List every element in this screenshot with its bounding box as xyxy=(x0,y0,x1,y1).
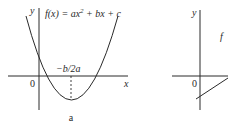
panel-b-y-axis-label: y xyxy=(191,7,197,18)
panel-a-x-axis-label: x xyxy=(123,78,129,89)
panel-a-origin-label: 0 xyxy=(30,78,35,89)
panel-a-y-axis-label: y xyxy=(29,5,35,16)
function-graphs-figure: y x 0 f(x) = ax2 + bx + c −b/2a a y 0 f xyxy=(0,0,228,130)
panel-b-origin-label: 0 xyxy=(192,78,197,89)
panel-b: y 0 f xyxy=(172,7,228,110)
panel-a-function-label: f(x) = ax2 + bx + c xyxy=(45,7,122,20)
panel-a-caption: a xyxy=(69,112,74,123)
panel-a-vertex-label: −b/2a xyxy=(56,63,81,74)
panel-b-line xyxy=(196,78,228,99)
panel-b-function-label: f xyxy=(220,31,224,42)
panel-a: y x 0 f(x) = ax2 + bx + c −b/2a a xyxy=(8,5,129,123)
panel-a-parabola xyxy=(26,16,118,100)
